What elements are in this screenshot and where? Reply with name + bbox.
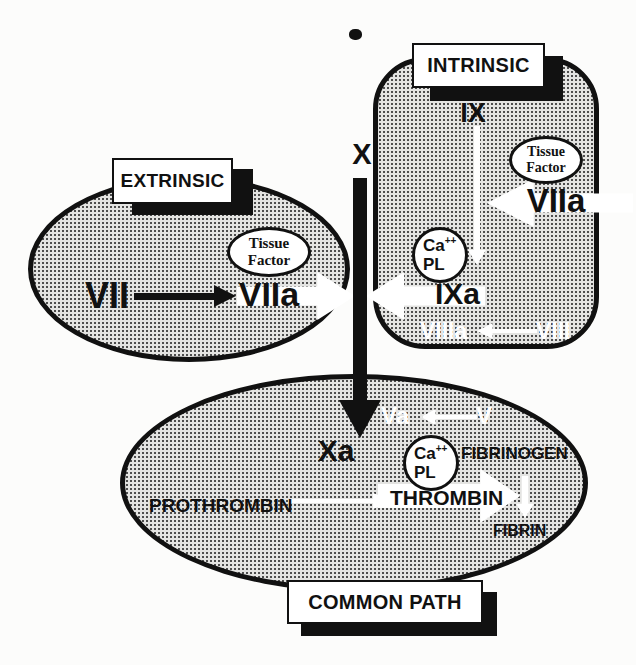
common-path-label-box: COMMON PATH	[287, 580, 483, 624]
ca-label: Ca++	[414, 443, 447, 463]
ix-to-ixa-arrow	[474, 126, 480, 252]
ca-label: Ca++	[423, 235, 456, 255]
intrinsic-label: INTRINSIC	[427, 54, 530, 77]
extrinsic-label-box: EXTRINSIC	[112, 158, 233, 204]
common-path-label: COMMON PATH	[308, 591, 462, 614]
factor-viia-label-extrinsic: VIIa	[223, 275, 315, 314]
scan-artifact	[349, 29, 362, 40]
factor-viii-label: VIII	[536, 318, 571, 345]
factor-x-label: X	[337, 138, 387, 171]
ca-pl-circle-intrinsic: Ca++ PL	[412, 227, 468, 283]
factor-ixa-label: IXa	[410, 277, 505, 311]
intrinsic-label-box: INTRINSIC	[412, 43, 545, 88]
tissue-factor-oval-intrinsic: Tissue Factor	[509, 136, 583, 184]
factor-va-label: Va	[381, 402, 409, 430]
tissue-factor-line2: Factor	[526, 160, 566, 176]
prothrombin-label: PROTHROMBIN	[149, 495, 293, 517]
factor-ix-label: IX	[445, 98, 501, 129]
vii-to-viia-arrow-shaft	[134, 293, 218, 300]
pl-label: PL	[414, 463, 436, 483]
factor-xa-label: Xa	[305, 434, 367, 468]
tissue-factor-line1: Tissue	[527, 144, 565, 160]
x-to-xa-arrow-shaft	[353, 178, 367, 404]
fibrinogen-label: FIBRINOGEN	[461, 444, 568, 464]
factor-v-label: V	[476, 402, 492, 430]
factor-vii-label: VII	[85, 275, 129, 317]
factor-viiia-label: VIIIa	[420, 318, 467, 345]
tissue-factor-oval-extrinsic: Tissue Factor	[227, 227, 311, 277]
tissue-factor-line1: Tissue	[249, 235, 290, 252]
fibrin-label: FIBRIN	[493, 522, 546, 540]
tissue-factor-line2: Factor	[248, 252, 290, 269]
factor-viia-label-intrinsic: VIIa	[500, 182, 612, 220]
pl-label: PL	[423, 255, 445, 275]
ca-pl-circle-common: Ca++ PL	[403, 435, 459, 491]
coagulation-cascade-diagram: INTRINSIC EXTRINSIC COMMON PATH Tissue F…	[0, 0, 636, 665]
extrinsic-label: EXTRINSIC	[120, 170, 224, 192]
thrombin-label: THROMBIN	[390, 486, 503, 510]
